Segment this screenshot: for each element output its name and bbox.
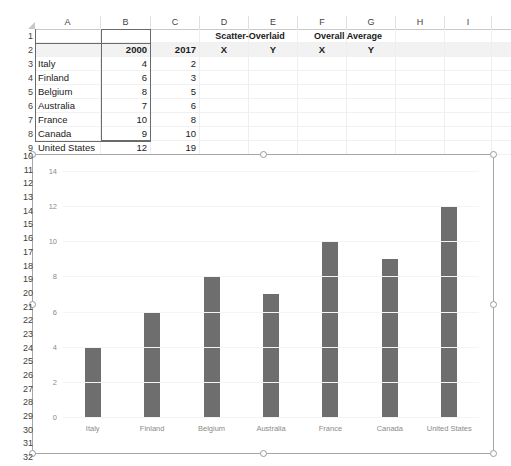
bar-slot-united-states[interactable]: United States (420, 171, 479, 417)
cell-G4[interactable] (347, 71, 396, 85)
cell-E3[interactable] (249, 57, 298, 71)
cell-I7[interactable] (445, 113, 492, 127)
cell-D9[interactable] (200, 141, 249, 155)
cell-G9[interactable] (347, 141, 396, 155)
cell-G7[interactable] (347, 113, 396, 127)
cell-D2[interactable]: X (200, 43, 249, 57)
cell-C8[interactable]: 10 (151, 127, 200, 141)
cell-A9[interactable]: United States (35, 141, 101, 155)
cell-E6[interactable] (249, 99, 298, 113)
row-header-28[interactable]: 28 (20, 396, 35, 410)
table-row[interactable]: Finland63 (35, 71, 511, 85)
cell-G3[interactable] (347, 57, 396, 71)
column-header-d[interactable]: D (200, 16, 249, 29)
cell-I6[interactable] (445, 99, 492, 113)
spreadsheet-grid[interactable]: ABCDEFGHIJ 123456789 20002017XYXYItaly42… (0, 0, 511, 160)
cell-E4[interactable] (249, 71, 298, 85)
cell-A1[interactable] (35, 29, 101, 43)
cell-J3[interactable] (492, 57, 511, 71)
cell-E8[interactable] (249, 127, 298, 141)
cell-G8[interactable] (347, 127, 396, 141)
cell-A3[interactable]: Italy (35, 57, 101, 71)
cell-G2[interactable]: Y (347, 43, 396, 57)
bar-slot-canada[interactable]: Canada (360, 171, 419, 417)
column-header-i[interactable]: I (445, 16, 492, 29)
row-header-16[interactable]: 16 (20, 232, 35, 246)
cell-D8[interactable] (200, 127, 249, 141)
row-header-25[interactable]: 25 (20, 355, 35, 369)
column-header-e[interactable]: E (249, 16, 298, 29)
cell-grid[interactable]: 20002017XYXYItaly42Finland63Belgium85Aus… (35, 29, 511, 155)
cell-F3[interactable] (298, 57, 347, 71)
cell-I8[interactable] (445, 127, 492, 141)
cell-H4[interactable] (396, 71, 445, 85)
cell-F4[interactable] (298, 71, 347, 85)
cell-I9[interactable] (445, 141, 492, 155)
row-header-21[interactable]: 21 (20, 301, 35, 315)
cell-H3[interactable] (396, 57, 445, 71)
cell-F6[interactable] (298, 99, 347, 113)
row-header-30[interactable]: 30 (20, 424, 35, 438)
cell-B2[interactable]: 2000 (101, 43, 151, 57)
cell-H2[interactable] (396, 43, 445, 57)
column-header-c[interactable]: C (151, 16, 200, 29)
resize-handle-top-right[interactable] (490, 151, 497, 158)
cell-J7[interactable] (492, 113, 511, 127)
cell-E7[interactable] (249, 113, 298, 127)
cell-B6[interactable]: 7 (101, 99, 151, 113)
cell-F5[interactable] (298, 85, 347, 99)
cell-F9[interactable] (298, 141, 347, 155)
row-header-27[interactable]: 27 (20, 383, 35, 397)
cell-B3[interactable]: 4 (101, 57, 151, 71)
cell-H7[interactable] (396, 113, 445, 127)
cell-J6[interactable] (492, 99, 511, 113)
cell-G6[interactable] (347, 99, 396, 113)
row-header-26[interactable]: 26 (20, 369, 35, 383)
row-header-23[interactable]: 23 (20, 328, 35, 342)
resize-handle-bottom-center[interactable] (260, 450, 267, 457)
cell-F7[interactable] (298, 113, 347, 127)
cell-A4[interactable]: Finland (35, 71, 101, 85)
table-row[interactable]: Canada910 (35, 127, 511, 141)
bar-chart-object[interactable]: ItalyFinlandBelgiumAustraliaFranceCanada… (32, 154, 494, 454)
cell-J1[interactable] (492, 29, 511, 43)
bar-slot-belgium[interactable]: Belgium (182, 171, 241, 417)
row-header-6[interactable]: 6 (20, 99, 35, 113)
table-row[interactable]: France108 (35, 113, 511, 127)
cell-D6[interactable] (200, 99, 249, 113)
cell-J5[interactable] (492, 85, 511, 99)
column-header-j[interactable]: J (492, 16, 511, 29)
row-header-17[interactable]: 17 (20, 246, 35, 260)
cell-B5[interactable]: 8 (101, 85, 151, 99)
row-header-12[interactable]: 12 (20, 177, 35, 191)
cell-J8[interactable] (492, 127, 511, 141)
bar-canada[interactable] (382, 259, 398, 417)
cell-H8[interactable] (396, 127, 445, 141)
cell-I5[interactable] (445, 85, 492, 99)
cell-H1[interactable] (396, 29, 445, 43)
cell-C4[interactable]: 3 (151, 71, 200, 85)
row-header-22[interactable]: 22 (20, 314, 35, 328)
table-row[interactable]: Belgium85 (35, 85, 511, 99)
cell-C2[interactable]: 2017 (151, 43, 200, 57)
row-header-24[interactable]: 24 (20, 342, 35, 356)
cell-H9[interactable] (396, 141, 445, 155)
bar-finland[interactable] (144, 312, 160, 417)
row-header-15[interactable]: 15 (20, 218, 35, 232)
column-header-g[interactable]: G (347, 16, 396, 29)
resize-handle-middle-right[interactable] (490, 301, 497, 308)
cell-A5[interactable]: Belgium (35, 85, 101, 99)
cell-D5[interactable] (200, 85, 249, 99)
cell-A2[interactable] (35, 43, 101, 57)
cell-H6[interactable] (396, 99, 445, 113)
column-header-h[interactable]: H (396, 16, 445, 29)
cell-I4[interactable] (445, 71, 492, 85)
row-header-3[interactable]: 3 (20, 57, 35, 71)
cell-J2[interactable] (492, 43, 511, 57)
row-header-32[interactable]: 32 (20, 451, 35, 465)
row-header-20[interactable]: 20 (20, 287, 35, 301)
cell-B1[interactable] (101, 29, 151, 43)
bar-france[interactable] (322, 241, 338, 417)
cell-I1[interactable] (445, 29, 492, 43)
cell-C3[interactable]: 2 (151, 57, 200, 71)
